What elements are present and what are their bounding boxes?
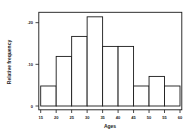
histogram-bar xyxy=(87,17,102,106)
x-axis: 15202530354045505560 xyxy=(38,110,183,120)
histogram-bar xyxy=(103,46,118,106)
histogram-bars xyxy=(41,17,180,106)
x-tick-label: 30 xyxy=(85,115,90,120)
x-tick-label: 20 xyxy=(54,115,59,120)
y-tick-label: 0 xyxy=(31,104,34,109)
histogram-chart: 0.10.20 15202530354045505560 Relative fr… xyxy=(0,0,192,138)
x-tick-label: 50 xyxy=(147,115,152,120)
x-tick-label: 60 xyxy=(178,115,183,120)
histogram-bar xyxy=(41,86,56,106)
x-tick-label: 45 xyxy=(131,115,136,120)
x-tick-label: 25 xyxy=(69,115,74,120)
x-tick-label: 35 xyxy=(100,115,105,120)
histogram-bar xyxy=(56,56,71,106)
histogram-bar xyxy=(149,76,164,106)
histogram-bar xyxy=(134,86,149,106)
x-tick-label: 55 xyxy=(162,115,167,120)
histogram-bar xyxy=(165,86,180,106)
histogram-bar xyxy=(118,46,133,106)
histogram-bar xyxy=(72,36,87,106)
y-axis: 0.10.20 xyxy=(27,20,38,108)
y-tick-label: .20 xyxy=(27,20,33,25)
x-tick-label: 15 xyxy=(38,115,43,120)
y-axis-title: Relative frequency xyxy=(6,40,12,85)
x-tick-label: 40 xyxy=(116,115,121,120)
y-tick-label: .10 xyxy=(27,62,33,67)
x-axis-title: Ages xyxy=(104,123,116,129)
